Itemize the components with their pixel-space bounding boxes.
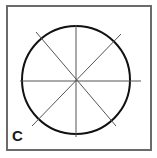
figure-label: C [12, 127, 23, 144]
circle-diagram [0, 0, 157, 158]
